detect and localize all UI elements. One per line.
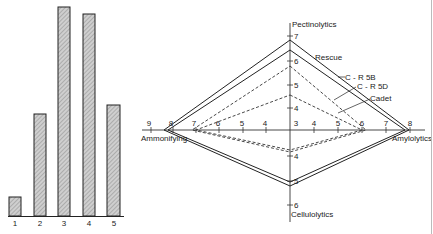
- tick-amyl-7: 7: [384, 119, 389, 128]
- series-label-cadet: Cadet: [370, 94, 392, 103]
- bar-5: [107, 105, 120, 216]
- tick-amyl-5: 5: [336, 119, 341, 128]
- tick-pect-7: 7: [294, 32, 299, 41]
- tick-ammo-4: 4: [263, 119, 268, 128]
- bar-1: [9, 197, 21, 216]
- bar-tick-4: 4: [87, 219, 92, 228]
- series-c-r-5d: [192, 66, 366, 152]
- series-label-c-r-5d: C - R 5D: [357, 82, 388, 91]
- axis-label-pectinolytics: Pectinolytics: [292, 20, 336, 29]
- leader-cadet: [338, 99, 370, 113]
- tick-pect-4: 4: [294, 104, 299, 113]
- bar-tick-3: 3: [62, 219, 67, 228]
- bar-tick-1: 1: [13, 219, 18, 228]
- tick-cell-4: 4: [294, 152, 299, 161]
- axis-label-cellulolytics: Cellulolytics: [291, 210, 333, 219]
- bar-tick-5: 5: [112, 219, 117, 228]
- tick-ammo-6: 6: [216, 119, 221, 128]
- tick-ammo-7: 7: [192, 119, 197, 128]
- tick-ammo-9: 9: [147, 119, 152, 128]
- tick-pect-6: 6: [294, 57, 299, 66]
- tick-cell-6: 6: [294, 201, 299, 210]
- radar-chart: 9 8 7 6 5 4 3 4 5 6 7 8 7 6 5 4 4 5 6 Pe…: [141, 20, 432, 222]
- tick-pect-5: 5: [294, 81, 299, 90]
- series-label-rescue: Rescue: [315, 53, 343, 62]
- tick-center-3: 3: [294, 119, 299, 128]
- bar-3: [58, 7, 70, 216]
- figure: 1 2 3 4 5 9 8 7 6 5 4 3: [0, 0, 433, 234]
- page-edge-line: [431, 0, 432, 234]
- bar-2: [34, 114, 46, 216]
- series-c-r-5b: [168, 50, 405, 182]
- bar-chart: 1 2 3 4 5: [8, 7, 124, 228]
- tick-amyl-6: 6: [360, 119, 365, 128]
- tick-amyl-8: 8: [408, 119, 413, 128]
- series-label-c-r-5b: C - R 5B: [345, 73, 376, 82]
- series-rescue: [164, 40, 409, 186]
- tick-ammo-5: 5: [240, 119, 245, 128]
- bar-4: [83, 14, 95, 216]
- tick-amyl-4: 4: [312, 119, 317, 128]
- bar-tick-2: 2: [38, 219, 43, 228]
